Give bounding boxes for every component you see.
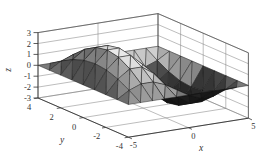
plot-canvas: 3210-1-2-3420-2-4-505xyz [0,0,259,166]
z-axis-title: z [3,68,13,73]
y-axis-title: y [59,135,65,145]
y-axis-tick-label: -2 [93,131,100,141]
x-axis-tick-label: 0 [191,131,195,141]
surface-plot-figure: 3210-1-2-3420-2-4-505xyz [0,0,259,166]
x-axis-tick-label: -5 [130,140,137,150]
y-axis-tick [125,137,129,138]
z-axis-tick-label: 3 [27,28,31,38]
y-axis-tick-label: 0 [72,122,76,132]
x-axis-tick-label: 5 [251,121,255,131]
y-axis-tick [79,118,83,119]
z-axis-tick-label: 1 [27,49,31,59]
y-axis-tick-label: 4 [27,102,32,112]
surface-facet [38,63,50,70]
y-axis-tick [102,127,106,128]
y-axis-tick [57,108,61,109]
y-axis-tick-label: 2 [49,112,53,122]
y-axis-tick-label: -4 [116,141,124,151]
z-axis-tick-label: -1 [24,71,31,81]
x-axis-tick [128,137,132,139]
x-axis-tick [248,118,252,120]
z-axis-tick-label: 2 [27,39,31,49]
z-axis-tick-label: 0 [27,60,31,70]
z-axis-tick-label: -2 [24,82,31,92]
surface-mesh [38,46,248,106]
x-axis-tick [188,128,192,130]
x-axis-title: x [198,143,204,153]
surface-facet [236,81,248,88]
